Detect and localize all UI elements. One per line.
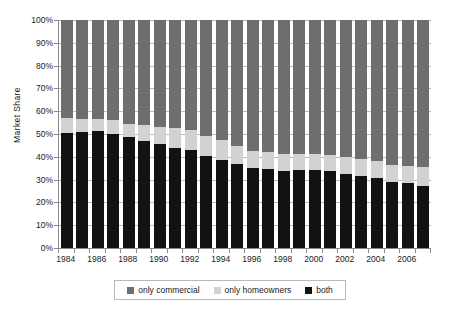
bar-segment-only-homeowners[interactable] bbox=[247, 151, 259, 168]
bar-segment-only-homeowners[interactable] bbox=[371, 161, 383, 178]
bar-column[interactable] bbox=[231, 20, 243, 248]
bar-segment-only-homeowners[interactable] bbox=[231, 146, 243, 164]
bar-segment-only-homeowners[interactable] bbox=[76, 119, 88, 132]
bar-column[interactable] bbox=[169, 20, 181, 248]
bar-segment-only-homeowners[interactable] bbox=[138, 125, 150, 141]
bar-column[interactable] bbox=[402, 20, 414, 248]
bar-segment-both[interactable] bbox=[76, 132, 88, 248]
bar-segment-both[interactable] bbox=[386, 182, 398, 248]
bar-segment-both[interactable] bbox=[138, 141, 150, 248]
bar-segment-both[interactable] bbox=[92, 131, 104, 248]
bar-segment-only-commercial[interactable] bbox=[169, 20, 181, 128]
bar-segment-only-homeowners[interactable] bbox=[324, 155, 336, 171]
bar-column[interactable] bbox=[355, 20, 367, 248]
bar-segment-only-homeowners[interactable] bbox=[293, 154, 305, 170]
bar-segment-only-commercial[interactable] bbox=[278, 20, 290, 154]
bar-segment-only-commercial[interactable] bbox=[417, 20, 429, 167]
bar-segment-both[interactable] bbox=[107, 134, 119, 248]
bar-segment-both[interactable] bbox=[262, 169, 274, 248]
bar-segment-both[interactable] bbox=[200, 156, 212, 248]
bar-segment-both[interactable] bbox=[278, 171, 290, 248]
bar-segment-both[interactable] bbox=[417, 186, 429, 248]
bar-column[interactable] bbox=[293, 20, 305, 248]
bar-segment-only-commercial[interactable] bbox=[340, 20, 352, 157]
legend-item[interactable]: both bbox=[305, 285, 333, 295]
bar-column[interactable] bbox=[138, 20, 150, 248]
bar-column[interactable] bbox=[371, 20, 383, 248]
bar-segment-only-commercial[interactable] bbox=[154, 20, 166, 127]
bar-column[interactable] bbox=[185, 20, 197, 248]
bar-segment-both[interactable] bbox=[371, 178, 383, 248]
bar-segment-both[interactable] bbox=[61, 133, 73, 248]
bar-segment-only-commercial[interactable] bbox=[402, 20, 414, 166]
bar-segment-only-homeowners[interactable] bbox=[216, 140, 228, 159]
bar-segment-both[interactable] bbox=[324, 171, 336, 248]
bar-segment-both[interactable] bbox=[154, 144, 166, 248]
bar-segment-only-homeowners[interactable] bbox=[417, 167, 429, 186]
bar-column[interactable] bbox=[386, 20, 398, 248]
bar-column[interactable] bbox=[417, 20, 429, 248]
bar-segment-only-homeowners[interactable] bbox=[123, 124, 135, 137]
bar-segment-only-commercial[interactable] bbox=[262, 20, 274, 152]
bar-segment-only-homeowners[interactable] bbox=[154, 127, 166, 144]
bar-segment-only-commercial[interactable] bbox=[309, 20, 321, 154]
bar-segment-only-commercial[interactable] bbox=[231, 20, 243, 146]
bar-segment-only-commercial[interactable] bbox=[61, 20, 73, 118]
bar-column[interactable] bbox=[340, 20, 352, 248]
bar-segment-only-commercial[interactable] bbox=[386, 20, 398, 165]
bar-column[interactable] bbox=[107, 20, 119, 248]
bar-segment-only-homeowners[interactable] bbox=[107, 120, 119, 133]
bar-segment-only-commercial[interactable] bbox=[107, 20, 119, 120]
bar-segment-both[interactable] bbox=[231, 164, 243, 248]
bar-segment-both[interactable] bbox=[355, 176, 367, 248]
bar-segment-only-commercial[interactable] bbox=[247, 20, 259, 151]
bar-segment-only-commercial[interactable] bbox=[123, 20, 135, 124]
bar-column[interactable] bbox=[262, 20, 274, 248]
legend-item[interactable]: only commercial bbox=[127, 285, 199, 295]
bar-segment-both[interactable] bbox=[185, 150, 197, 248]
bar-segment-only-homeowners[interactable] bbox=[61, 118, 73, 133]
bar-segment-only-homeowners[interactable] bbox=[340, 157, 352, 174]
bar-column[interactable] bbox=[92, 20, 104, 248]
bar-segment-only-commercial[interactable] bbox=[200, 20, 212, 136]
bar-segment-only-homeowners[interactable] bbox=[386, 165, 398, 182]
bar-column[interactable] bbox=[200, 20, 212, 248]
bar-column[interactable] bbox=[324, 20, 336, 248]
bar-column[interactable] bbox=[278, 20, 290, 248]
bar-segment-only-homeowners[interactable] bbox=[402, 166, 414, 183]
bar-column[interactable] bbox=[216, 20, 228, 248]
bar-column[interactable] bbox=[61, 20, 73, 248]
bar-segment-both[interactable] bbox=[169, 148, 181, 248]
legend-item[interactable]: only homeowners bbox=[214, 285, 292, 295]
bar-segment-only-commercial[interactable] bbox=[185, 20, 197, 130]
bar-segment-only-homeowners[interactable] bbox=[92, 119, 104, 131]
bar-segment-only-homeowners[interactable] bbox=[278, 154, 290, 171]
bar-segment-both[interactable] bbox=[309, 170, 321, 248]
bar-segment-only-commercial[interactable] bbox=[371, 20, 383, 161]
bar-column[interactable] bbox=[309, 20, 321, 248]
bar-segment-only-commercial[interactable] bbox=[355, 20, 367, 159]
bar-segment-only-commercial[interactable] bbox=[293, 20, 305, 154]
bar-segment-only-commercial[interactable] bbox=[324, 20, 336, 155]
bar-segment-both[interactable] bbox=[247, 168, 259, 248]
bar-segment-only-commercial[interactable] bbox=[216, 20, 228, 140]
bar-segment-both[interactable] bbox=[340, 174, 352, 248]
bar-segment-only-commercial[interactable] bbox=[92, 20, 104, 119]
bar-column[interactable] bbox=[123, 20, 135, 248]
bar-segment-only-commercial[interactable] bbox=[138, 20, 150, 125]
bar-column[interactable] bbox=[154, 20, 166, 248]
bar-column[interactable] bbox=[76, 20, 88, 248]
bar-segment-only-homeowners[interactable] bbox=[309, 154, 321, 170]
bar-segment-only-homeowners[interactable] bbox=[169, 128, 181, 148]
bar-segment-only-homeowners[interactable] bbox=[355, 159, 367, 175]
bar-segment-both[interactable] bbox=[123, 137, 135, 248]
legend-label: only commercial bbox=[138, 285, 199, 295]
bar-segment-only-homeowners[interactable] bbox=[185, 130, 197, 150]
bar-segment-both[interactable] bbox=[402, 183, 414, 248]
bar-segment-both[interactable] bbox=[293, 170, 305, 248]
bar-segment-both[interactable] bbox=[216, 160, 228, 248]
bar-segment-only-homeowners[interactable] bbox=[262, 152, 274, 169]
bar-segment-only-homeowners[interactable] bbox=[200, 136, 212, 156]
bar-column[interactable] bbox=[247, 20, 259, 248]
bar-segment-only-commercial[interactable] bbox=[76, 20, 88, 119]
